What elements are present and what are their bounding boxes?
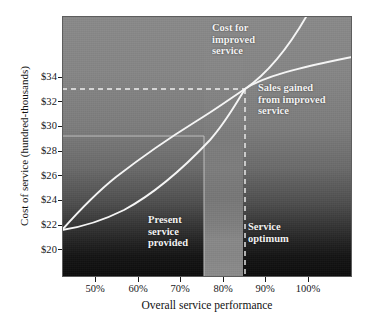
- x-tick-label-100: 100%: [296, 283, 321, 294]
- chart-lines-layer: [62, 16, 352, 277]
- x-tick-mark-80: [223, 277, 224, 282]
- y-tick-label-22: $22: [41, 219, 57, 230]
- y-tick-label-26: $26: [41, 170, 57, 181]
- sales-gained-curve: [62, 57, 352, 230]
- x-tick-mark-70: [180, 277, 181, 282]
- y-tick-label-32: $32: [41, 96, 57, 107]
- x-axis-title: Overall service performance: [62, 299, 352, 311]
- chart-figure: $34 $32 $30 $28 $26 $24 $22 $20 Cost of …: [0, 0, 365, 321]
- x-tick-mark-50: [95, 277, 96, 282]
- y-tick-label-30: $30: [41, 120, 57, 131]
- y-tick-label-20: $20: [41, 244, 57, 255]
- y-axis-title: Cost of service (hundred-thousands): [18, 36, 30, 256]
- x-tick-mark-100: [308, 277, 309, 282]
- y-tick-label-34: $34: [41, 71, 57, 82]
- plot-area: Cost for improved service Sales gained f…: [62, 16, 352, 277]
- cost-for-improved-service-curve: [62, 16, 310, 230]
- x-tick-mark-90: [265, 277, 266, 282]
- x-tick-mark-60: [138, 277, 139, 282]
- y-tick-label-28: $28: [41, 145, 57, 156]
- y-tick-label-24: $24: [41, 194, 57, 205]
- x-tick-label-70: 70%: [170, 283, 189, 294]
- x-tick-label-90: 90%: [255, 283, 274, 294]
- x-tick-label-60: 60%: [128, 283, 147, 294]
- x-tick-label-50: 50%: [85, 283, 104, 294]
- x-tick-label-80: 80%: [213, 283, 232, 294]
